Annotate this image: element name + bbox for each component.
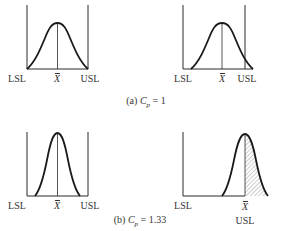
panel-b-centered xyxy=(27,132,88,196)
usl-label: USL xyxy=(236,216,255,226)
lsl-label: LSL xyxy=(174,201,192,211)
usl-label: USL xyxy=(81,74,100,84)
usl-label: USL xyxy=(81,201,100,211)
cp-subscript: p xyxy=(135,220,139,228)
caption-prefix: (b) xyxy=(114,214,126,225)
process-capability-diagram xyxy=(0,0,283,231)
caption-a: (a) Cp = 1 xyxy=(126,95,165,111)
equals-sign: = xyxy=(141,214,147,225)
mean-label: X xyxy=(54,74,60,84)
cp-value: 1.33 xyxy=(149,214,167,225)
mean-label: X xyxy=(54,201,60,211)
usl-label: USL xyxy=(238,74,257,84)
cp-value: 1 xyxy=(161,95,166,106)
lsl-label: LSL xyxy=(8,74,26,84)
lsl-label: LSL xyxy=(174,74,192,84)
panel-a-shifted xyxy=(183,5,253,69)
caption-b: (b) Cp = 1.33 xyxy=(114,214,166,230)
caption-prefix: (a) xyxy=(126,95,137,106)
mean-label: X xyxy=(219,74,225,84)
panel-a-centered xyxy=(27,5,88,69)
lsl-label: LSL xyxy=(8,201,26,211)
panel-b-shifted xyxy=(183,132,268,196)
equals-sign: = xyxy=(153,95,159,106)
cp-subscript: p xyxy=(147,101,151,109)
cp-symbol: C xyxy=(128,214,135,225)
mean-label: X xyxy=(242,202,248,212)
